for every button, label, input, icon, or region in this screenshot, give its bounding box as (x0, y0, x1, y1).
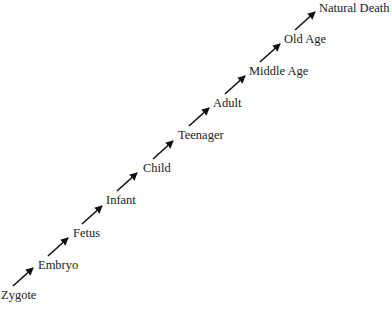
arrow-icon (260, 44, 280, 62)
arrow-icon (295, 12, 315, 30)
stage-label-infant: Infant (106, 193, 136, 207)
arrow-icon (48, 238, 68, 256)
stage-label-old-age: Old Age (284, 32, 326, 46)
arrow-icon (82, 206, 102, 224)
arrow-icon (225, 76, 245, 94)
arrow-icon (117, 173, 137, 191)
arrow-icon (153, 141, 173, 159)
stage-label-fetus: Fetus (73, 226, 100, 240)
stage-label-middle-age: Middle Age (249, 64, 308, 78)
arrow-icon (13, 268, 33, 286)
stage-label-embryo: Embryo (38, 258, 78, 272)
stage-label-child: Child (143, 161, 171, 175)
stage-label-natural-death: Natural Death (319, 1, 389, 15)
stage-label-teenager: Teenager (178, 128, 224, 142)
stage-label-adult: Adult (213, 96, 241, 110)
life-stages-diagram: ZygoteEmbryoFetusInfantChildTeenagerAdul… (0, 0, 392, 311)
arrow-icon (189, 108, 209, 126)
stage-label-zygote: Zygote (1, 288, 36, 302)
